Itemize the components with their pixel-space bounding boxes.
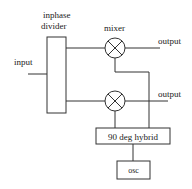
output-top-label: output xyxy=(158,36,182,46)
divider-label-line1: inphase xyxy=(43,10,71,20)
divider-label-line2: divider xyxy=(41,21,67,31)
output-bottom-label: output xyxy=(158,89,182,99)
mixer-top-symbol xyxy=(105,38,125,58)
block-diagram: inphase divider input mixer output outpu… xyxy=(0,0,192,189)
mixer-bottom-symbol xyxy=(105,91,125,111)
mixer-label: mixer xyxy=(104,23,125,33)
inphase-divider-block xyxy=(47,37,66,113)
input-label: input xyxy=(14,57,33,67)
osc-label: osc xyxy=(128,166,139,175)
hybrid-label: 90 deg hybrid xyxy=(108,132,158,142)
hybrid-to-mixer-top-wire xyxy=(115,58,149,128)
